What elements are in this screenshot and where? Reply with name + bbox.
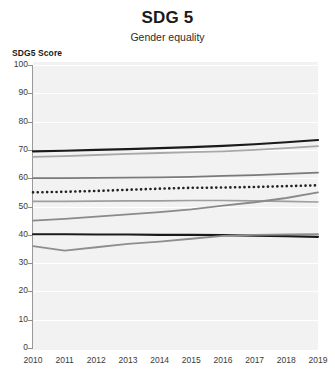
series-lines bbox=[0, 0, 335, 390]
chart-container: SDG 5 Gender equality SDG5 Score 1009080… bbox=[0, 0, 335, 390]
series-line-series-4-dotted bbox=[33, 185, 318, 192]
series-line-series-5-light-mid bbox=[33, 201, 318, 202]
series-line-series-3-mid bbox=[33, 173, 318, 179]
series-line-series-6-rising bbox=[33, 192, 318, 220]
